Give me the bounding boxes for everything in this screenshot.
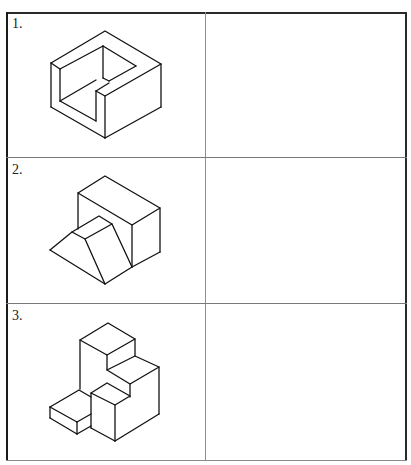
figure-1-isometric-drawing — [51, 31, 161, 138]
figure-3-isometric-drawing — [50, 323, 159, 441]
figure-2-isometric-drawing — [50, 176, 160, 284]
